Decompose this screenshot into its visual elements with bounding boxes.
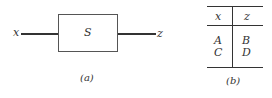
caption-b: (b) (226, 75, 240, 86)
table-cell: C (214, 46, 222, 59)
caption-a: (a) (80, 72, 94, 83)
table-cell: D (242, 46, 251, 59)
output-label: z (157, 27, 163, 40)
input-line (21, 33, 59, 35)
table-header-rule (207, 25, 263, 26)
table-header-x: x (215, 10, 221, 23)
output-line (118, 33, 156, 35)
table-bottom-rule (207, 67, 263, 68)
input-label: x (13, 26, 19, 39)
table-column-divider (232, 6, 233, 67)
table-header-z: z (244, 10, 250, 23)
table-top-rule (207, 6, 263, 7)
block-label: S (84, 26, 92, 39)
